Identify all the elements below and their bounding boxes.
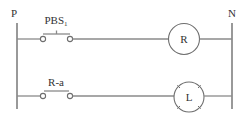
lamp-icon: L [174, 82, 204, 112]
rung-2: R-a L [17, 76, 232, 112]
contact-terminal-right [67, 93, 72, 98]
rung-1: PBS1 R [17, 14, 232, 55]
relay-coil-icon: R [169, 24, 200, 55]
relay-contact-icon [40, 91, 72, 99]
contact-label-r-a: R-a [48, 76, 64, 88]
ladder-diagram: P N PBS1 R R-a [0, 0, 247, 124]
pushbutton-contact-icon [40, 31, 72, 42]
contact-terminal-left [40, 93, 45, 98]
contact-terminal-right [67, 36, 72, 41]
contact-terminal-left [40, 36, 45, 41]
lamp-label-l: L [186, 91, 193, 103]
contact-label-pbs1: PBS1 [44, 14, 68, 28]
left-rail-label: P [11, 7, 17, 19]
coil-label-r: R [180, 33, 188, 45]
right-rail-label: N [228, 7, 236, 19]
